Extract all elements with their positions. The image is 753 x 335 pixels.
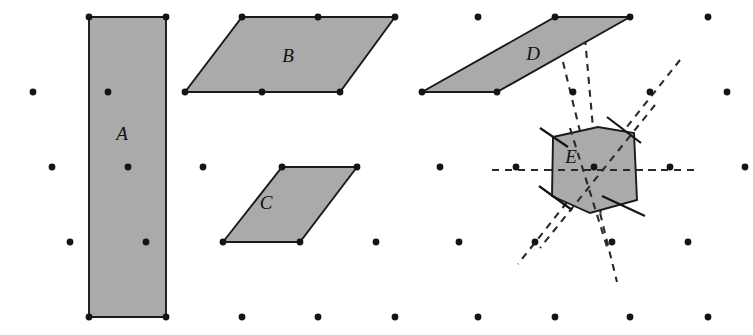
lattice-dot <box>337 89 344 96</box>
lattice-dot <box>67 239 74 246</box>
lattice-dot <box>143 239 150 246</box>
lattice-dot <box>86 14 93 21</box>
lattice-dot <box>105 89 112 96</box>
shape-label-e: E <box>564 146 577 167</box>
lattice-dot <box>163 14 170 21</box>
lattice-dot <box>373 239 380 246</box>
lattice-dot <box>315 314 322 321</box>
lattice-dot <box>182 89 189 96</box>
lattice-dot <box>125 164 132 171</box>
shape-label-a: A <box>114 123 128 144</box>
lattice-dot <box>552 14 559 21</box>
lattice-dot <box>419 89 426 96</box>
lattice-dot <box>279 164 286 171</box>
shape-label-d: D <box>525 43 540 64</box>
lattice-dot <box>591 164 598 171</box>
lattice-dot <box>456 239 463 246</box>
shape-label-c: C <box>260 192 273 213</box>
lattice-dot <box>667 164 674 171</box>
lattice-dot <box>724 89 731 96</box>
lattice-dot <box>239 314 246 321</box>
lattice-dot <box>30 89 37 96</box>
lattice-dot <box>392 314 399 321</box>
lattice-dot <box>705 314 712 321</box>
lattice-dot <box>513 164 520 171</box>
lattice-dot <box>742 164 749 171</box>
figure-svg: A B C D E <box>0 0 753 335</box>
lattice-dot <box>297 239 304 246</box>
lattice-dot <box>315 14 322 21</box>
lattice-dot <box>532 239 539 246</box>
lattice-dot <box>705 14 712 21</box>
lattice-dot <box>475 314 482 321</box>
lattice-dot <box>259 89 266 96</box>
lattice-dot <box>86 314 93 321</box>
lattice-dot <box>647 89 654 96</box>
shape-c-parallelogram <box>223 167 357 242</box>
lattice-dot <box>627 14 634 21</box>
lattice-dot <box>163 314 170 321</box>
shape-label-b: B <box>282 45 294 66</box>
lattice-dot <box>494 89 501 96</box>
lattice-dot <box>609 239 616 246</box>
lattice-dot <box>475 14 482 21</box>
lattice-dot <box>552 314 559 321</box>
lattice-dot <box>49 164 56 171</box>
lattice-dot <box>239 14 246 21</box>
lattice-dot <box>200 164 207 171</box>
lattice-dot <box>627 314 634 321</box>
lattice-dot <box>570 89 577 96</box>
lattice-dot <box>685 239 692 246</box>
lattice-figure-canvas: A B C D E <box>0 0 753 335</box>
lattice-dot <box>437 164 444 171</box>
lattice-dot <box>354 164 361 171</box>
lattice-dot <box>392 14 399 21</box>
lattice-dot <box>220 239 227 246</box>
